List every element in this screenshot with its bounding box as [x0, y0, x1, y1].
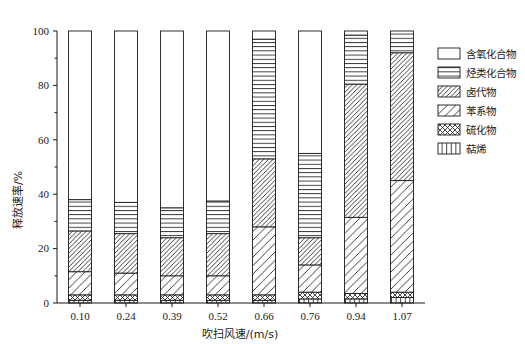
bar-segment-blank: [69, 31, 92, 200]
bar-segment-horizontal: [253, 39, 276, 159]
legend-swatch-dense-diagonal: [438, 86, 460, 97]
x-tick-label: 0.94: [346, 310, 366, 322]
bar-segment-cross-hatch: [115, 295, 138, 300]
bar-segment-blank: [161, 31, 184, 208]
bar-segment-horizontal: [391, 31, 414, 53]
legend-item-dense-diagonal: 卤代物: [438, 86, 496, 98]
x-tick-label: 0.10: [70, 310, 90, 322]
legend-item-blank: 含氧化合物: [438, 48, 516, 60]
legend: 含氧化合物烃类化合物卤代物苯系物硫化物萜烯: [438, 48, 516, 155]
bar-segment-vertical: [391, 298, 414, 303]
bar-segment-dense-diagonal: [115, 234, 138, 273]
bar-segment-dense-diagonal: [69, 231, 92, 272]
bar-segment-sparse-diagonal: [207, 276, 230, 295]
bar-segment-dense-diagonal: [253, 159, 276, 227]
legend-swatch-sparse-diagonal: [438, 105, 460, 116]
legend-swatch-blank: [438, 48, 460, 59]
legend-item-vertical: 萜烯: [438, 143, 487, 155]
bar-segment-cross-hatch: [253, 295, 276, 300]
bar-segment-horizontal: [161, 208, 184, 238]
legend-swatch-cross-hatch: [438, 124, 460, 135]
bar-segment-sparse-diagonal: [299, 265, 322, 292]
bar-segment-sparse-diagonal: [115, 273, 138, 295]
plot-area: 020406080100 0.100.240.390.520.660.760.9…: [33, 25, 426, 322]
bar-segment-blank: [299, 31, 322, 153]
bar-segment-horizontal: [207, 201, 230, 234]
bar-segment-dense-diagonal: [299, 238, 322, 265]
bar-segment-vertical: [299, 299, 322, 303]
y-axis-title: 释放速率/%: [11, 171, 25, 229]
chart-container: 020406080100 0.100.240.390.520.660.760.9…: [0, 0, 525, 344]
x-tick-label: 1.07: [392, 310, 412, 322]
legend-swatch-horizontal: [438, 67, 460, 78]
x-tick-label: 0.39: [162, 310, 182, 322]
bar-segment-horizontal: [299, 153, 322, 237]
legend-item-cross-hatch: 硫化物: [438, 124, 496, 136]
bar-segment-vertical: [345, 299, 368, 303]
bar-0.10: [69, 31, 92, 303]
bar-0.39: [161, 31, 184, 303]
legend-swatch-vertical: [438, 143, 460, 154]
bar-segment-sparse-diagonal: [161, 276, 184, 295]
bar-segment-dense-diagonal: [207, 234, 230, 276]
legend-label: 硫化物: [466, 124, 496, 136]
stacked-bar-chart: 020406080100 0.100.240.390.520.660.760.9…: [0, 0, 525, 344]
bar-segment-horizontal: [345, 35, 368, 84]
legend-item-sparse-diagonal: 苯系物: [438, 105, 496, 117]
y-tick-label: 100: [33, 25, 50, 37]
bar-segment-blank: [115, 31, 138, 202]
bars-group: [69, 31, 414, 303]
y-tick-label: 0: [44, 297, 50, 309]
bar-segment-dense-diagonal: [391, 53, 414, 181]
y-tick-label: 40: [38, 188, 50, 200]
y-axis-title-label: 释放速率/%: [11, 171, 25, 229]
y-tick-label: 80: [38, 79, 50, 91]
legend-label: 苯系物: [466, 105, 496, 117]
bar-segment-dense-diagonal: [161, 238, 184, 276]
x-tick-label: 0.24: [116, 310, 136, 322]
bar-segment-sparse-diagonal: [253, 227, 276, 295]
bar-0.76: [299, 31, 322, 303]
y-axis: 020406080100: [33, 25, 58, 309]
bar-0.66: [253, 31, 276, 303]
legend-label: 萜烯: [466, 143, 487, 155]
legend-label: 烃类化合物: [466, 67, 516, 79]
legend-item-horizontal: 烃类化合物: [438, 67, 516, 79]
bar-segment-horizontal: [115, 202, 138, 233]
x-tick-label: 0.52: [208, 310, 227, 322]
bar-segment-horizontal: [69, 200, 92, 231]
x-tick-label: 0.66: [254, 310, 274, 322]
bar-segment-blank: [207, 31, 230, 201]
bar-segment-cross-hatch: [391, 292, 414, 297]
legend-label: 卤代物: [466, 86, 496, 98]
y-tick-label: 20: [38, 242, 50, 254]
bar-0.24: [115, 31, 138, 303]
bar-segment-blank: [345, 31, 368, 35]
bar-segment-sparse-diagonal: [69, 272, 92, 295]
bar-segment-sparse-diagonal: [345, 217, 368, 293]
x-axis-title: 吹扫风速/(m/s): [202, 328, 278, 341]
bar-1.07: [391, 31, 414, 303]
bar-0.52: [207, 31, 230, 303]
legend-label: 含氧化合物: [466, 48, 516, 60]
bar-segment-sparse-diagonal: [391, 181, 414, 293]
bar-segment-dense-diagonal: [345, 84, 368, 217]
bar-segment-cross-hatch: [345, 293, 368, 298]
x-tick-label: 0.76: [300, 310, 320, 322]
bar-segment-cross-hatch: [161, 295, 184, 300]
bar-0.94: [345, 31, 368, 303]
bar-segment-blank: [253, 31, 276, 39]
y-tick-label: 60: [38, 134, 50, 146]
x-axis: 0.100.240.390.520.660.760.941.07: [57, 303, 425, 322]
bar-segment-cross-hatch: [299, 292, 322, 299]
bar-segment-cross-hatch: [69, 295, 92, 300]
bar-segment-cross-hatch: [207, 295, 230, 300]
x-axis-title-label: 吹扫风速/(m/s): [202, 328, 278, 341]
